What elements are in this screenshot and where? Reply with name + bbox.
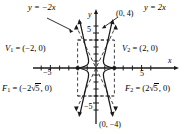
leader-asymptote-left — [47, 18, 73, 33]
x-axis-label: x — [168, 57, 172, 65]
graph-canvas — [0, 0, 192, 134]
focus-left-label: F1 = (−2√5, 0) — [2, 83, 52, 93]
vertex-right-dot — [112, 66, 116, 70]
vertex-left-equation: = (−2, 0) — [13, 43, 45, 53]
focus-right-suffix: , 0) — [159, 83, 170, 93]
hyperbola-figure: y = −2x y = 2x y x (0, 4) (0, −4) 5 −5 −… — [0, 0, 192, 134]
y-axis-label: y — [88, 11, 92, 19]
y-tick-positive-label: 5 — [87, 26, 91, 34]
asymptote-left-label: y = −2x — [28, 3, 56, 12]
y-tick-negative-label: −5 — [84, 103, 93, 111]
axes — [33, 9, 179, 124]
focus-right-prefix: = (2 — [133, 83, 149, 93]
asymptote-right-label: y = 2x — [144, 3, 166, 12]
vertex-left-label: V1 = (−2, 0) — [5, 44, 46, 53]
focus-left-suffix: , 0) — [41, 83, 52, 93]
point-top-label: (0, 4) — [116, 10, 133, 18]
x-tick-positive-label: 5 — [140, 70, 144, 78]
focus-right-label: F2 = (2√5, 0) — [125, 83, 170, 93]
x-tick-negative-label: −5 — [43, 69, 52, 77]
vertex-right-equation: = (2, 0) — [130, 43, 157, 53]
point-bottom-label: (0, −4) — [99, 121, 121, 129]
focus-left-prefix: = (−2 — [10, 83, 31, 93]
vertex-left-dot — [76, 66, 80, 70]
vertex-right-label: V2 = (2, 0) — [122, 44, 158, 53]
